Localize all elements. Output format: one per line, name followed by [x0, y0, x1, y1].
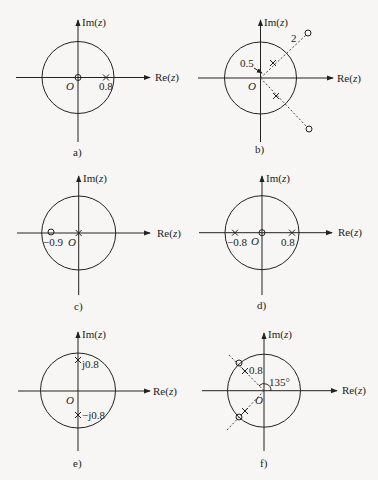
origin-label: O	[66, 394, 74, 406]
im-label: Im(z)	[83, 172, 107, 185]
pole-lower-label: −j0.8	[82, 409, 106, 421]
zero-marker	[48, 229, 54, 235]
panel-d: Im(z) Re(z) O −0.8 0.8 d)	[199, 172, 362, 312]
zero-value-label: −0.9	[43, 236, 63, 248]
origin-label: O	[248, 80, 256, 92]
im-label: Im(z)	[82, 16, 106, 29]
im-label: Im(z)	[266, 172, 290, 185]
origin-label: O	[255, 394, 263, 406]
zero-marker-upper	[305, 30, 311, 36]
radial-line-upper	[261, 35, 307, 78]
re-label: Re(z)	[157, 227, 181, 240]
re-label: Re(z)	[338, 226, 362, 239]
panel-caption: a)	[73, 146, 82, 159]
pole-upper-label: j0.8	[81, 358, 99, 370]
origin-label: O	[68, 236, 76, 248]
re-label: Re(z)	[337, 72, 361, 85]
pole-zero-diagrams: Im(z) Re(z) O 0.8 a) Im(z) Re(z) O 0.5 2…	[0, 0, 378, 480]
pole-positive-label: 0.8	[281, 236, 295, 248]
pole-negative-label: −0.8	[227, 236, 247, 248]
pole-marker-lower	[242, 408, 248, 414]
pole-radius-label: 0.8	[249, 364, 263, 376]
panel-caption: e)	[73, 457, 82, 470]
panel-caption: c)	[74, 300, 83, 313]
origin-label: O	[251, 235, 259, 247]
panel-b: Im(z) Re(z) O 0.5 2 b)	[198, 16, 361, 156]
zero-marker-lower	[306, 126, 312, 132]
im-label: Im(z)	[268, 328, 292, 341]
pole-marker-upper	[242, 368, 248, 374]
panel-a: Im(z) Re(z) O 0.8 a)	[16, 16, 179, 159]
re-label: Re(z)	[153, 385, 177, 398]
im-label: Im(z)	[264, 16, 288, 29]
pole-radius-label: 0.5	[240, 57, 254, 69]
im-label: Im(z)	[82, 328, 106, 341]
panel-caption: f)	[260, 457, 268, 470]
panel-caption: d)	[257, 299, 267, 312]
panel-e: Im(z) Re(z) O j0.8 −j0.8 e)	[18, 328, 177, 470]
panel-c: Im(z) Re(z) O −0.9 c)	[17, 172, 181, 313]
zero-marker-upper	[236, 360, 242, 366]
radial-line-lower	[261, 78, 308, 127]
panel-f: Im(z) Re(z) O 0.8 135° f)	[202, 328, 366, 470]
panel-caption: b)	[255, 143, 265, 156]
zero-radius-label: 2	[291, 32, 297, 44]
pole-marker-upper	[270, 60, 276, 66]
re-label: Re(z)	[155, 71, 179, 84]
re-label: Re(z)	[342, 384, 366, 397]
pole-value-label: 0.8	[99, 80, 113, 92]
origin-label: O	[66, 80, 74, 92]
angle-label: 135°	[269, 376, 290, 388]
